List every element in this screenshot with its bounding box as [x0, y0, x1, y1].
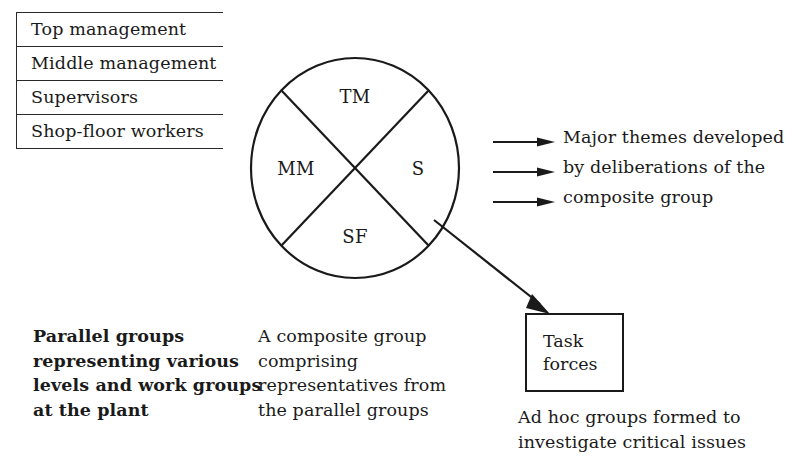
right-arrow-icon — [493, 196, 555, 198]
theme-text: composite group — [563, 182, 713, 212]
theme-line: Major themes developed — [493, 122, 783, 152]
theme-text: Major themes developed — [563, 122, 784, 152]
table-row: Supervisors — [17, 80, 223, 114]
caption-line: comprising — [258, 349, 446, 374]
composite-group-circle: TM MM S SF — [248, 54, 462, 282]
task-forces-line: forces — [543, 353, 598, 376]
level-label: Top management — [31, 19, 186, 39]
table-row: Shop-floor workers — [17, 114, 223, 149]
caption-line: at the plant — [33, 398, 261, 423]
major-themes-block: Major themes developed by deliberations … — [493, 122, 783, 212]
diagonal-arrow-icon — [432, 218, 592, 328]
caption-line: levels and work groups — [33, 373, 261, 398]
segment-label-sf: SF — [248, 226, 462, 247]
right-arrow-icon — [493, 136, 555, 138]
caption-ad-hoc-groups: Ad hoc groups formed to investigate crit… — [518, 405, 746, 454]
caption-line: A composite group — [258, 324, 446, 349]
theme-line: composite group — [493, 182, 783, 212]
level-label: Shop-floor workers — [31, 121, 204, 141]
segment-label-mm: MM — [256, 158, 336, 179]
caption-line: Ad hoc groups formed to — [518, 405, 746, 430]
level-label: Middle management — [31, 53, 217, 73]
table-row: Middle management — [17, 46, 223, 80]
level-label: Supervisors — [31, 87, 138, 107]
table-row: Top management — [17, 12, 223, 46]
caption-line: the parallel groups — [258, 398, 446, 423]
segment-label-tm: TM — [248, 86, 462, 107]
organisational-levels-table: Top management Middle management Supervi… — [16, 12, 223, 149]
theme-text: by deliberations of the — [563, 152, 765, 182]
theme-line: by deliberations of the — [493, 152, 783, 182]
caption-parallel-groups: Parallel groups representing various lev… — [33, 324, 261, 422]
caption-composite-group: A composite group comprising representat… — [258, 324, 446, 422]
segment-label-s: S — [388, 158, 448, 179]
caption-line: representing various — [33, 349, 261, 374]
task-forces-arrow — [432, 218, 592, 328]
caption-line: investigate critical issues — [518, 430, 746, 455]
task-forces-box: Task forces — [525, 313, 624, 392]
task-forces-line: Task — [543, 330, 583, 353]
right-arrow-icon — [493, 166, 555, 168]
caption-line: Parallel groups — [33, 324, 261, 349]
caption-line: representatives from — [258, 373, 446, 398]
